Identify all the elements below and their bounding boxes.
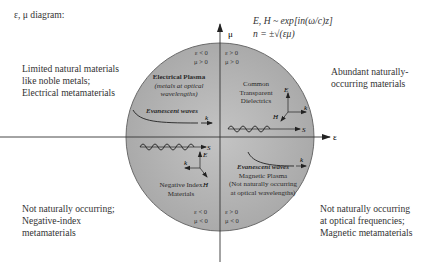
q1-region-label: Common Transparent Dielectrics [227,80,285,106]
q1-h-label: H [272,113,279,121]
label-top-left: Limited natural materials like noble met… [22,63,119,100]
label-bottom-right: Not naturally occurring at optical frequ… [320,203,412,240]
q3-region-label: Negative Index Materials [148,181,214,198]
q3-s-label: S [207,144,211,152]
epsilon-axis-label: ε [333,132,337,142]
q4-region-label: Evanescent waves Magnetic Plasma (Not na… [226,163,300,197]
q4-signs: ε > 0 μ < 0 [225,207,239,225]
q2-evanescent-label: Evanescent waves [146,107,198,116]
label-bottom-left: Not naturally occurring; Negative-index … [22,203,115,240]
q2-region-label: Electrical Plasma (metals at optical wav… [144,73,214,99]
q3-e-label: E [202,151,208,159]
mu-axis-label: μ [228,29,233,39]
q2-signs: ε < 0 μ > 0 [194,48,208,66]
q1-s-label: S [302,126,306,134]
label-top-right: Abundant naturally- occurring materials [331,66,409,90]
q3-signs: ε < 0 μ < 0 [194,207,208,225]
q1-signs: ε > 0 μ > 0 [225,48,239,66]
